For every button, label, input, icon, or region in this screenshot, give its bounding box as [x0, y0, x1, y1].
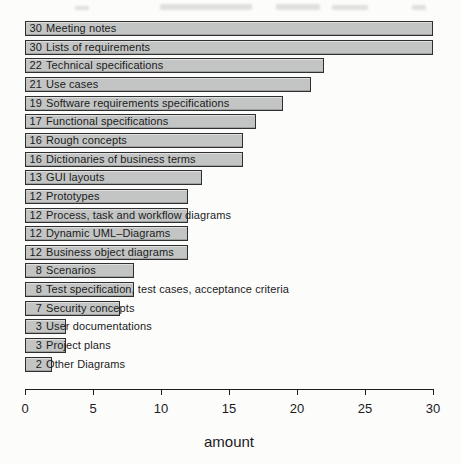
bar-label: 19Software requirements specifications: [29, 96, 229, 111]
bar-category: Business object diagrams: [46, 246, 174, 258]
x-axis-tick: [297, 389, 298, 395]
x-axis-tick: [93, 389, 94, 395]
bar-category: Security concepts: [46, 302, 135, 314]
bar-value: 8: [29, 282, 42, 297]
bar-value: 12: [29, 189, 42, 204]
bar-value: 12: [29, 245, 42, 260]
bar-category: GUI layouts: [46, 171, 105, 183]
bar-label: 16Dictionaries of business terms: [29, 152, 196, 167]
bar-category: Use cases: [46, 78, 98, 90]
x-axis-tick-label: 20: [282, 401, 312, 416]
bar-category: Other Diagrams: [46, 358, 125, 370]
bar-category: Rough concepts: [46, 134, 127, 146]
bar-value: 16: [29, 152, 42, 167]
bar-category: Technical specifications: [46, 59, 163, 71]
bar-value: 3: [29, 338, 42, 353]
x-axis-tick: [229, 389, 230, 395]
bar-value: 21: [29, 77, 42, 92]
bar-value: 12: [29, 208, 42, 223]
bar-category: Test specification, test cases, acceptan…: [46, 283, 289, 295]
x-axis-tick: [25, 389, 26, 395]
bar-label: 12Process, task and workflow diagrams: [29, 208, 231, 223]
bar-label: 30Meeting notes: [29, 21, 116, 36]
bar-value: 19: [29, 96, 42, 111]
x-axis-tick: [365, 389, 366, 395]
bar-value: 3: [29, 319, 42, 334]
bar-category: Lists of requirements: [46, 41, 150, 53]
bar-label: 12Prototypes: [29, 189, 100, 204]
bar-value: 22: [29, 58, 42, 73]
x-axis-tick-label: 0: [10, 401, 40, 416]
x-axis-tick-label: 25: [350, 401, 380, 416]
bar-value: 16: [29, 133, 42, 148]
bar-label: 21Use cases: [29, 77, 98, 92]
bar-value: 7: [29, 301, 42, 316]
x-axis-label: amount: [25, 433, 433, 450]
bar-category: Meeting notes: [46, 22, 116, 34]
bar-label: 16Rough concepts: [29, 133, 127, 148]
bar-category: Process, task and workflow diagrams: [46, 209, 231, 221]
bar-category: Software requirements specifications: [46, 97, 229, 109]
bar-label: 12Business object diagrams: [29, 245, 174, 260]
bar-value: 8: [29, 263, 42, 278]
x-axis-tick: [433, 389, 434, 395]
bar-category: Project plans: [46, 339, 111, 351]
bar-category: Functional specifications: [46, 115, 168, 127]
bar-category: Prototypes: [46, 190, 100, 202]
bar-label: 22Technical specifications: [29, 58, 163, 73]
x-axis-tick-label: 10: [146, 401, 176, 416]
bar-value: 13: [29, 170, 42, 185]
bar-label: 8Scenarios: [29, 263, 96, 278]
bar-chart-figure: 30Meeting notes30Lists of requirements22…: [0, 0, 461, 464]
bar-label: 17Functional specifications: [29, 114, 168, 129]
bar-category: Dynamic UML–Diagrams: [46, 227, 170, 239]
x-axis-tick: [161, 389, 162, 395]
x-axis-tick-label: 30: [418, 401, 448, 416]
bar-label: 8Test specification, test cases, accepta…: [29, 282, 289, 297]
bar-category: User documentations: [46, 320, 152, 332]
bar-label: 3User documentations: [29, 319, 152, 334]
bar-label: 7Security concepts: [29, 301, 135, 316]
bar-label: 2Other Diagrams: [29, 357, 125, 372]
bar-category: Dictionaries of business terms: [46, 153, 196, 165]
bar-value: 30: [29, 21, 42, 36]
bar-value: 12: [29, 226, 42, 241]
bar-label: 3Project plans: [29, 338, 111, 353]
bar-label: 13GUI layouts: [29, 170, 105, 185]
bar-value: 30: [29, 40, 42, 55]
x-axis-tick-label: 15: [214, 401, 244, 416]
bar-label: 12Dynamic UML–Diagrams: [29, 226, 170, 241]
bar-value: 2: [29, 357, 42, 372]
bar-value: 17: [29, 114, 42, 129]
x-axis-tick-label: 5: [78, 401, 108, 416]
bar-category: Scenarios: [46, 264, 96, 276]
bar-label: 30Lists of requirements: [29, 40, 150, 55]
